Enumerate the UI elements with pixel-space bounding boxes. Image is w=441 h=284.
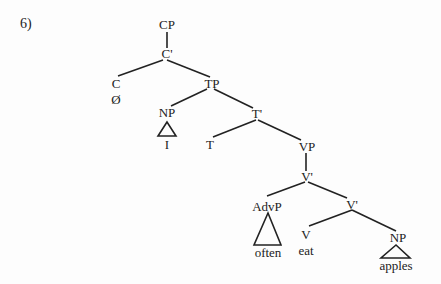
node-object-word: apples	[379, 259, 412, 272]
node-adverb-word: often	[255, 246, 282, 259]
node-vp: VP	[299, 140, 316, 153]
node-advp: AdvP	[252, 200, 282, 213]
syntax-tree-diagram: 6) CP C' C Ø TP NP I T' T VP V' AdvP oft…	[0, 0, 441, 284]
node-t-bar: T'	[252, 107, 262, 120]
node-verb-word: eat	[298, 244, 313, 257]
node-t: T	[206, 138, 214, 151]
node-c-bar: C'	[161, 47, 172, 60]
node-np-object: NP	[390, 231, 407, 244]
node-tp: TP	[204, 77, 219, 90]
node-cp: CP	[159, 18, 175, 31]
tree-branches	[0, 0, 441, 284]
node-v-bar-upper: V'	[301, 170, 313, 183]
example-number: 6)	[20, 16, 32, 32]
node-v-bar-lower: V'	[346, 198, 358, 211]
node-c-null: Ø	[111, 93, 120, 106]
node-c: C	[112, 77, 121, 90]
node-subject-word: I	[165, 138, 169, 151]
node-np-subject: NP	[159, 106, 176, 119]
node-v: V	[301, 228, 310, 241]
